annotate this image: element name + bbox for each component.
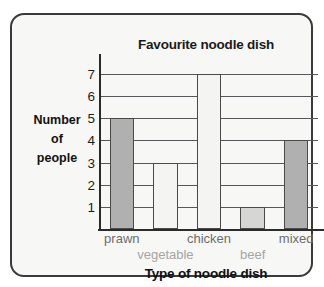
x-axis-title: Type of noodle dish <box>90 266 322 281</box>
x-axis-label-beef: beef <box>240 247 265 263</box>
x-axis-tick-labels: prawnvegetablechickenbeefmixed <box>100 231 324 265</box>
chart-frame: Favourite noodle dish Number of people 7… <box>10 13 313 277</box>
bar-vegetable <box>153 163 177 229</box>
y-axis-tick-label: 7 <box>87 68 95 82</box>
x-axis-label-mixed: mixed <box>279 231 314 247</box>
y-axis-tick-label: 4 <box>87 135 95 149</box>
y-axis-title: Number of people <box>24 111 90 168</box>
bar-mixed <box>284 140 308 229</box>
y-axis-title-line-3: people <box>24 149 90 168</box>
y-axis-tick-label: 5 <box>87 113 95 127</box>
chart-title: Favourite noodle dish <box>90 37 322 52</box>
y-axis-tick-label: 2 <box>87 179 95 193</box>
bar-prawn <box>110 118 134 229</box>
plot-inner: 7654321 <box>100 63 318 229</box>
y-axis-tick-label: 1 <box>87 201 95 215</box>
y-axis-tick-label: 6 <box>87 90 95 104</box>
y-axis-line <box>99 54 101 229</box>
x-axis-label-vegetable: vegetable <box>137 247 193 263</box>
plot-area: 7654321 <box>100 63 318 229</box>
bar-beef <box>240 207 264 229</box>
y-axis-title-line-2: of <box>24 130 90 149</box>
y-axis-title-line-1: Number <box>24 111 90 130</box>
x-axis-label-prawn: prawn <box>104 231 139 247</box>
bar-chicken <box>197 74 221 229</box>
y-axis-tick-label: 3 <box>87 157 95 171</box>
x-axis-label-chicken: chicken <box>187 231 231 247</box>
